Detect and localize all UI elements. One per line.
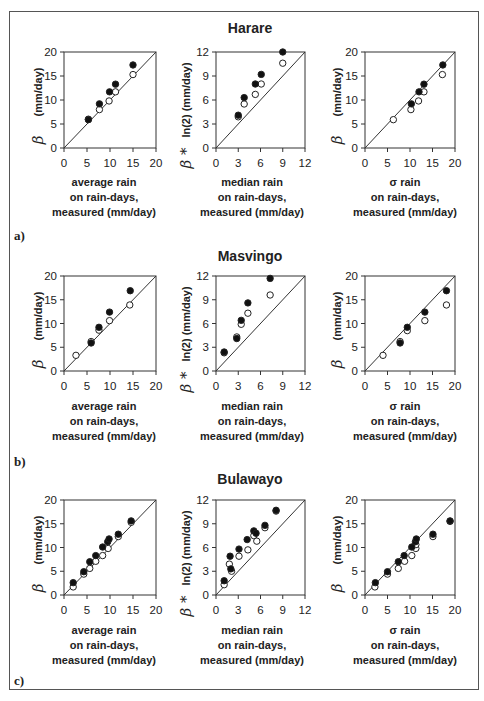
scatter-plot-masvingo-1: 0510152005101520: [44, 270, 162, 392]
x-tick-label: 0: [362, 380, 368, 392]
data-point-filled: [258, 71, 264, 77]
panel-a-title: Harare: [228, 20, 273, 36]
panel-c-title: Bulawayo: [217, 471, 282, 487]
y-tick-label: 10: [44, 542, 57, 554]
data-point-filled: [236, 546, 242, 552]
scatter-plot-harare-2: 036912036912: [196, 46, 311, 169]
scatter-plot-harare-3: 0510152005101520: [345, 46, 461, 169]
panel-c-label: c): [14, 673, 24, 688]
x-tick-label: 0: [61, 604, 67, 616]
data-point-filled: [262, 522, 268, 528]
y-tick-label: 20: [345, 270, 358, 282]
x-tick-label: 10: [104, 604, 117, 616]
data-point-open: [73, 352, 79, 358]
data-point-open: [106, 317, 112, 323]
xlabel-line: σ rain: [390, 400, 421, 412]
ylabel-greek: β *: [177, 371, 195, 393]
ylabel-text: ln(2) (mm/day): [180, 62, 192, 138]
x-tick-label: 5: [384, 157, 390, 169]
data-point-open: [443, 302, 449, 308]
data-point-filled: [404, 324, 410, 330]
x-tick-label: 15: [127, 157, 140, 169]
x-tick-label: 20: [150, 604, 163, 616]
x-tick-label: 5: [384, 604, 390, 616]
data-point-filled: [440, 62, 446, 68]
xlabel-line: measured (mm/day): [353, 654, 457, 666]
data-point-open: [267, 292, 273, 298]
y-tick-label: 12: [196, 494, 209, 506]
x-tick-label: 15: [127, 380, 140, 392]
ylabel-greek: β: [328, 135, 346, 145]
data-point-open: [380, 352, 386, 358]
y-tick-label: 10: [345, 318, 358, 330]
data-point-filled: [408, 101, 414, 107]
ylabel-text: (mm/day): [32, 67, 44, 116]
ylabel-greek: β *: [177, 147, 195, 169]
x-tick-label: 0: [213, 380, 219, 392]
x-tick-label: 15: [426, 380, 439, 392]
data-point-filled: [253, 530, 259, 536]
data-point-open: [415, 98, 421, 104]
x-tick-label: 10: [404, 604, 417, 616]
x-tick-label: 15: [426, 157, 439, 169]
xlabel-line: measured (mm/day): [52, 430, 156, 442]
data-point-filled: [88, 340, 94, 346]
data-point-filled: [397, 340, 403, 346]
data-point-open: [422, 317, 428, 323]
y-tick-label: 0: [203, 589, 209, 601]
x-tick-label: 9: [280, 380, 286, 392]
data-point-filled: [238, 317, 244, 323]
y-tick-label: 5: [51, 118, 57, 130]
data-point-filled: [273, 507, 279, 513]
y-tick-label: 5: [352, 118, 358, 130]
y-tick-label: 15: [345, 294, 358, 306]
ylabel-greek: β: [328, 359, 346, 369]
x-tick-label: 10: [404, 157, 417, 169]
data-point-filled: [443, 288, 449, 294]
ylabel-greek: β: [328, 583, 346, 593]
x-tick-label: 5: [84, 380, 90, 392]
data-point-open: [106, 98, 112, 104]
panel-b-title: Masvingo: [218, 248, 283, 264]
xlabel-line: median rain: [221, 176, 283, 188]
xlabel-line: measured (mm/day): [200, 654, 304, 666]
y-tick-label: 9: [203, 70, 209, 82]
x-tick-label: 12: [299, 604, 312, 616]
xlabel-line: on rain-days,: [371, 415, 439, 427]
xlabel-line: average rain: [72, 400, 137, 412]
data-point-filled: [430, 531, 436, 537]
data-point-open: [241, 101, 247, 107]
x-tick-label: 0: [61, 380, 67, 392]
y-tick-label: 15: [44, 518, 57, 530]
one-to-one-line: [216, 52, 305, 148]
ylabel-greek: β: [29, 583, 47, 593]
y-tick-label: 5: [352, 341, 358, 353]
y-tick-label: 15: [345, 518, 358, 530]
data-point-filled: [447, 518, 453, 524]
y-tick-label: 3: [203, 118, 209, 130]
xlabel-line: measured (mm/day): [353, 206, 457, 218]
x-tick-label: 0: [61, 157, 67, 169]
xlabel-line: on rain-days,: [70, 191, 138, 203]
x-tick-label: 9: [280, 157, 286, 169]
xlabel-line: average rain: [72, 624, 137, 636]
data-point-filled: [244, 536, 250, 542]
y-tick-label: 5: [51, 565, 57, 577]
ylabel-text: ln(2) (mm/day): [180, 510, 192, 586]
x-tick-label: 3: [235, 604, 241, 616]
data-point-filled: [130, 62, 136, 68]
data-point-filled: [416, 89, 422, 95]
x-tick-label: 5: [84, 604, 90, 616]
data-point-filled: [106, 309, 112, 315]
x-tick-label: 9: [280, 604, 286, 616]
data-point-filled: [395, 559, 401, 565]
scatter-plot-harare-1: 0510152005101520: [44, 46, 162, 169]
ylabel-greek: β: [29, 135, 47, 145]
x-tick-label: 20: [449, 380, 462, 392]
y-tick-label: 12: [196, 270, 209, 282]
data-point-filled: [280, 49, 286, 55]
x-tick-label: 0: [362, 604, 368, 616]
data-point-open: [252, 91, 258, 97]
xlabel-line: median rain: [221, 400, 283, 412]
x-tick-label: 6: [257, 380, 263, 392]
